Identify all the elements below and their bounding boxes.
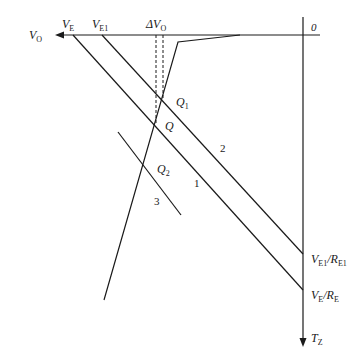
- point-q2-label: Q2: [157, 163, 170, 178]
- ve1-re1-label: VE1/RE1: [311, 253, 347, 268]
- line-2-number: 2: [220, 143, 226, 154]
- ve-re-label: VE/RE: [311, 289, 339, 304]
- ve1-label: VE1: [92, 18, 108, 33]
- vo-axis-label: VO: [29, 29, 42, 44]
- load-line-diagram: [0, 0, 358, 354]
- line-3-number: 3: [154, 196, 160, 207]
- characteristic-curve: [104, 35, 240, 300]
- point-q1-label: Q1: [176, 96, 189, 111]
- load-line-1: [73, 35, 303, 290]
- tz-axis-label: TZ: [311, 332, 323, 347]
- delta-vo-label: ΔVO: [146, 18, 166, 33]
- tz-axis-arrow-icon: [300, 338, 307, 347]
- point-q-label: Q: [165, 120, 174, 132]
- origin-label: 0: [311, 22, 317, 33]
- line-1-number: 1: [194, 178, 200, 189]
- ve-label: VE: [62, 18, 74, 33]
- load-line-2: [102, 35, 303, 254]
